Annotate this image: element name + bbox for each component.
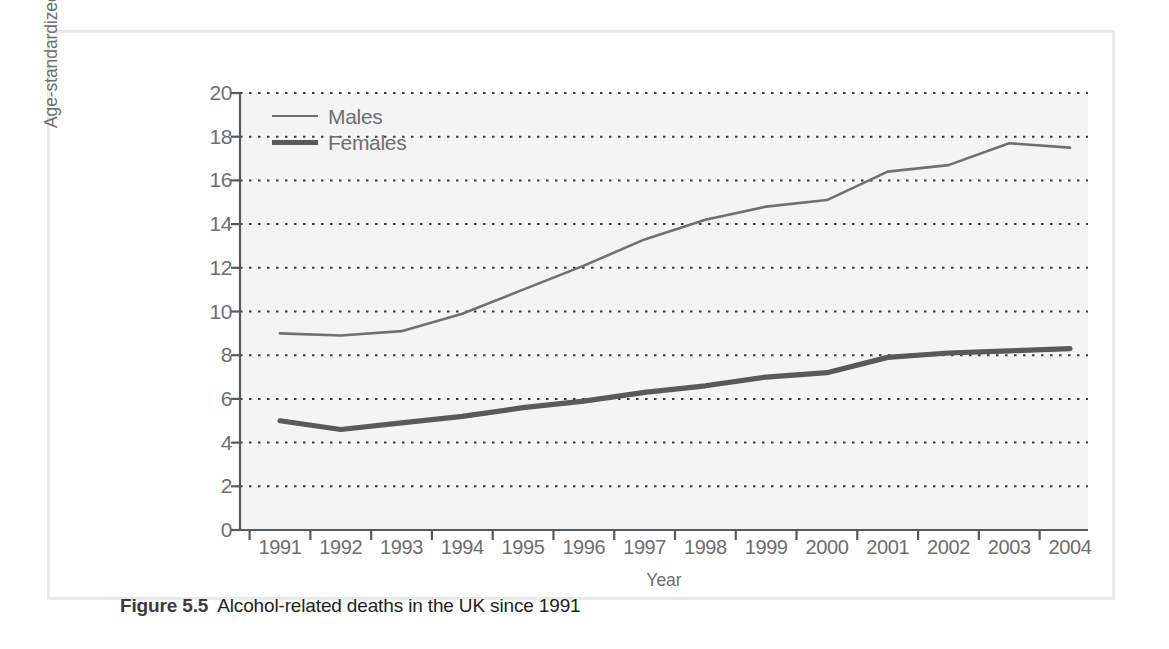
legend-item-males: Males xyxy=(272,103,472,129)
x-tick-label-2004: 2004 xyxy=(1034,536,1106,559)
legend-line-icon xyxy=(272,115,318,117)
y-tick-label-18: 18 xyxy=(192,125,232,149)
axis-ticks xyxy=(231,93,1040,540)
chart-canvas xyxy=(240,93,1088,530)
y-tick-label-12: 12 xyxy=(192,256,232,280)
figure-frame: Age-standardized rate per 100,000 popula… xyxy=(47,30,1115,600)
figure-caption-text: Alcohol-related deaths in the UK since 1… xyxy=(217,595,580,616)
figure-page: Age-standardized rate per 100,000 popula… xyxy=(0,0,1169,649)
y-tick-label-2: 2 xyxy=(192,474,232,498)
y-tick-label-16: 16 xyxy=(192,168,232,192)
y-tick-label-0: 0 xyxy=(192,518,232,542)
y-tick-label-10: 10 xyxy=(192,300,232,324)
y-axis-tick-labels: 02468101214161820 xyxy=(180,93,232,530)
y-tick-label-14: 14 xyxy=(192,212,232,236)
y-tick-label-20: 20 xyxy=(192,81,232,105)
y-tick-label-4: 4 xyxy=(192,431,232,455)
legend-item-label: Males xyxy=(328,106,383,127)
chart-legend: MalesFemales xyxy=(272,103,472,155)
legend-line-icon xyxy=(272,140,318,145)
plot-area xyxy=(240,93,1088,530)
y-axis-title: Age-standardized rate per 100,000 popula… xyxy=(41,0,62,128)
y-tick-label-6: 6 xyxy=(192,387,232,411)
x-axis-title: Year xyxy=(240,570,1088,591)
y-tick-label-8: 8 xyxy=(192,343,232,367)
figure-number: Figure 5.5 xyxy=(120,595,208,616)
data-series xyxy=(280,143,1070,429)
legend-item-females: Females xyxy=(272,129,472,155)
figure-caption: Figure 5.5Alcohol-related deaths in the … xyxy=(120,595,580,617)
legend-item-label: Females xyxy=(328,132,406,153)
x-axis-tick-labels: 1991199219931994199519961997199819992000… xyxy=(240,536,1088,566)
